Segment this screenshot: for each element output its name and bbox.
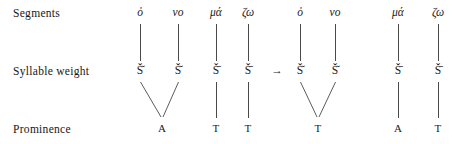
weight-cell: Š̆ (175, 64, 181, 76)
segment-cell: μά (392, 6, 404, 18)
transformation-arrow: → (271, 64, 283, 76)
row-label-syllable-weight: Syllable weight (13, 65, 89, 77)
connector-weight-prom-l1 (141, 82, 162, 117)
segment-cell: ὀ (297, 6, 303, 18)
connector-weight-prom-r1 (301, 82, 318, 117)
weight-cell: Š̄ (395, 64, 401, 76)
row-label-segments: Segments (13, 7, 60, 19)
weight-cell: Š̆ (137, 64, 143, 76)
diagram-canvas: Segments Syllable weight Prominence → ὀ … (0, 0, 456, 144)
segment-cell: ὀ (137, 6, 143, 18)
segment-cell: νο (330, 6, 341, 18)
segment-cell: ζω (432, 6, 444, 18)
weight-cell: Š̄ (245, 64, 251, 76)
prominence-cell: T (245, 122, 252, 134)
connector-weight-prom-r2 (319, 82, 336, 117)
segment-cell: νο (173, 6, 184, 18)
weight-cell: Š̄ (435, 64, 441, 76)
weight-cell: Š̆ (332, 64, 338, 76)
weight-cell: Š̆ (297, 64, 303, 76)
row-label-prominence: Prominence (13, 123, 71, 135)
segment-cell: μά (210, 6, 222, 18)
weight-cell: Š̄ (213, 64, 219, 76)
prominence-cell: A (158, 122, 166, 134)
prominence-cell: A (394, 122, 402, 134)
connector-weight-prom-l2 (163, 82, 179, 117)
prominence-cell: T (213, 122, 220, 134)
prominence-cell: T (315, 122, 322, 134)
segment-cell: ζω (242, 6, 254, 18)
prominence-cell: T (435, 122, 442, 134)
